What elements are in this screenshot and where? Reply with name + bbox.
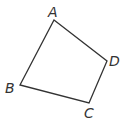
quadrilateral-diagram: A D C B	[0, 0, 129, 121]
vertex-label-c: C	[84, 105, 94, 121]
vertex-label-d: D	[109, 53, 120, 69]
vertex-label-b: B	[5, 80, 15, 96]
vertex-label-a: A	[47, 4, 58, 20]
quadrilateral-abcd	[20, 20, 107, 103]
